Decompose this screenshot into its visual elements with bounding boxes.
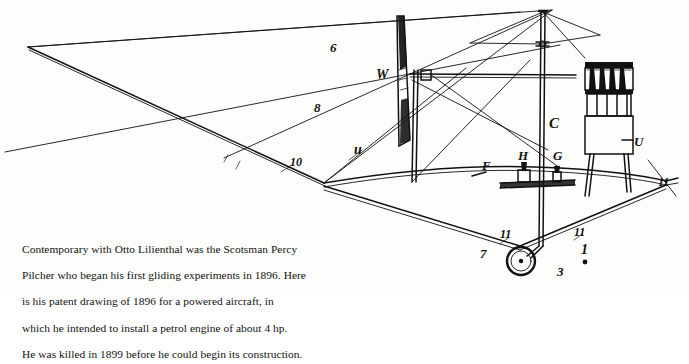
label-u-right: U <box>634 134 644 149</box>
figure-caption: Contemporary with Otto Lilienthal was th… <box>22 230 352 364</box>
lower-keel-frame <box>324 185 666 250</box>
wing-trailing-edge-curve <box>324 166 666 187</box>
caption-line: is his patent drawing of 1896 for a powe… <box>22 295 352 308</box>
marker-1-dot <box>583 260 588 265</box>
label-f: F <box>481 158 491 173</box>
label-8: 8 <box>314 100 321 115</box>
label-w: W <box>376 67 390 82</box>
label-11-right-low: 11 <box>574 225 585 239</box>
label-11-left-low: 11 <box>500 227 511 241</box>
upper-horizontal-spar <box>410 70 576 80</box>
caption-line: He was killed in 1899 before he could be… <box>22 348 352 361</box>
label-1: 1 <box>581 242 588 257</box>
left-vertical-post <box>412 70 418 182</box>
caption-line: Pilcher who began his first gliding expe… <box>22 269 352 282</box>
engine-cylinders <box>587 68 631 90</box>
label-10: 10 <box>290 155 302 169</box>
label-11-right: 11 <box>658 175 669 189</box>
mast-stay-wires <box>470 12 600 58</box>
label-h: H <box>517 148 529 163</box>
label-3: 3 <box>556 264 564 279</box>
fitting-H <box>518 162 530 182</box>
label-g: G <box>553 148 563 163</box>
landing-wheel <box>507 246 543 275</box>
caption-line: Contemporary with Otto Lilienthal was th… <box>22 243 352 256</box>
vertical-mast <box>536 11 549 246</box>
label-c: C <box>549 115 560 131</box>
caption-line: which he intended to install a petrol en… <box>22 322 352 335</box>
left-wing-spar <box>28 12 520 186</box>
vertical-surface-W <box>397 16 410 146</box>
label-6: 6 <box>330 40 337 55</box>
label-u-left: u <box>354 142 362 157</box>
mid-bracing-wire <box>5 45 560 152</box>
label-7: 7 <box>480 246 487 261</box>
